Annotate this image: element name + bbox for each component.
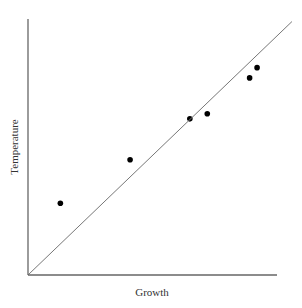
y-axis-label: Temperature: [8, 119, 20, 175]
data-point: [127, 157, 133, 163]
data-point: [254, 65, 260, 71]
data-point: [247, 75, 253, 81]
data-point: [58, 201, 64, 207]
plot-area: [28, 22, 292, 275]
x-axis-label: Growth: [135, 286, 169, 298]
scatter-chart: Growth Temperature: [0, 0, 302, 308]
data-point: [204, 111, 210, 117]
reference-line: [28, 22, 292, 275]
